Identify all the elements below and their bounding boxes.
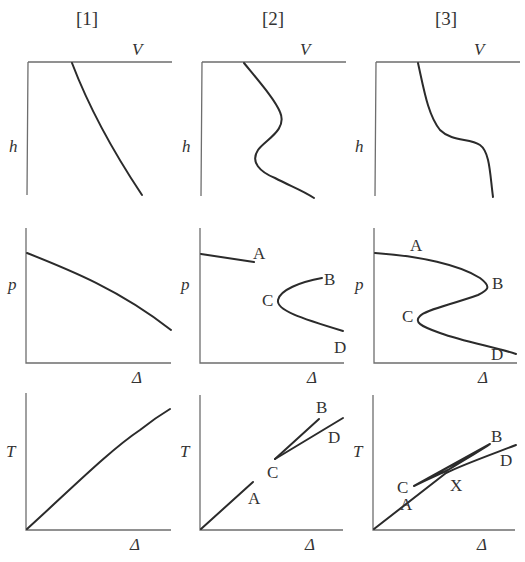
axes <box>26 228 171 363</box>
p-delta-curve <box>375 253 516 354</box>
point-label-d: D <box>500 451 512 470</box>
point-label-b: B <box>324 270 335 289</box>
column-label-1: [1] <box>76 8 98 29</box>
column-label-3: [3] <box>435 8 457 29</box>
h-v-curve <box>418 63 493 197</box>
y-axis-label: T <box>353 442 364 461</box>
panel-2-h-v: V h <box>182 40 346 198</box>
x-axis-label: Δ <box>304 535 315 554</box>
x-axis-label: V <box>300 40 313 59</box>
panel-1-T-delta: T Δ <box>6 393 171 554</box>
axes <box>27 62 172 195</box>
point-label-c: C <box>397 478 408 497</box>
point-label-d: D <box>328 428 340 447</box>
axes <box>374 228 517 363</box>
point-label-d: D <box>491 345 503 364</box>
y-axis-label: h <box>9 137 18 156</box>
y-axis-label: h <box>355 137 364 156</box>
panel-2-T-delta: T Δ A B C D <box>180 395 343 554</box>
point-label-c: C <box>267 463 278 482</box>
point-label-b: B <box>491 427 502 446</box>
y-axis-label: h <box>182 137 191 156</box>
x-axis-label: Δ <box>476 535 487 554</box>
axes <box>201 62 346 196</box>
panel-1-p-delta: p Δ <box>7 228 171 387</box>
point-label-a: A <box>253 244 266 263</box>
axes <box>375 62 520 196</box>
point-label-a: A <box>248 489 261 508</box>
point-label-b: B <box>316 398 327 417</box>
T-delta-branch-a <box>201 482 253 529</box>
panel-2-p-delta: p Δ A B C D <box>180 228 346 387</box>
y-axis-label: p <box>180 275 190 294</box>
point-label-x: X <box>450 476 462 495</box>
p-delta-branch-a <box>201 254 254 262</box>
panel-3-p-delta: p Δ A B C D <box>354 228 517 387</box>
panel-3-h-v: V h <box>355 40 520 197</box>
y-axis-label: p <box>7 275 17 294</box>
point-label-d: D <box>334 338 346 357</box>
point-label-a: A <box>410 236 423 255</box>
x-axis-label: Δ <box>129 535 140 554</box>
y-axis-label: T <box>180 442 191 461</box>
y-axis-label: T <box>6 442 17 461</box>
point-label-c: C <box>262 291 273 310</box>
h-v-curve <box>72 63 142 195</box>
x-axis-label: Δ <box>306 368 317 387</box>
diagram-canvas: [1] [2] [3] V h V h V h p Δ p Δ A B C <box>0 0 525 562</box>
p-delta-curve <box>27 253 171 330</box>
panel-3-T-delta: T Δ A B C D X <box>353 395 516 554</box>
T-delta-branch-cb <box>275 419 319 459</box>
x-axis-label: V <box>132 40 145 59</box>
column-label-2: [2] <box>262 8 284 29</box>
point-label-b: B <box>492 274 503 293</box>
panel-1-h-v: V h <box>9 40 172 195</box>
x-axis-label: V <box>474 40 487 59</box>
h-v-curve <box>244 63 314 198</box>
point-label-c: C <box>402 307 413 326</box>
x-axis-label: Δ <box>477 368 488 387</box>
T-delta-stable-branch <box>374 445 516 529</box>
T-delta-curve <box>27 409 170 529</box>
x-axis-label: Δ <box>131 368 142 387</box>
axes <box>373 395 515 530</box>
point-label-a: A <box>400 495 413 514</box>
y-axis-label: p <box>354 275 364 294</box>
